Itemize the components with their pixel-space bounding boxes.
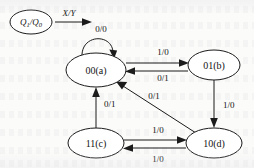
state-node-c[interactable]: 11(c): [68, 128, 124, 158]
transition-b-to-a-arrowhead-icon: [125, 67, 135, 75]
transition-d-to-a-arrowhead-icon: [116, 82, 127, 90]
transition-a-to-a-label: 0/0: [95, 24, 107, 34]
transition-d-to-c-label: 1/0: [152, 154, 164, 164]
state-node-d-label: 10(d): [203, 138, 225, 150]
transition-b-to-d: 1/0: [210, 80, 235, 128]
transition-c-to-a-arrowhead-icon: [92, 87, 100, 97]
legend-arrowhead-icon: [82, 18, 92, 25]
state-node-a[interactable]: 00(a): [66, 53, 126, 87]
state-node-a-label: 00(a): [85, 65, 106, 77]
figure-canvas: Q1/Q0 X/Y 0/0 1/0 0/1: [0, 0, 254, 168]
state-diagram: Q1/Q0 X/Y 0/0 1/0 0/1: [0, 0, 254, 168]
state-node-b-label: 01(b): [203, 60, 225, 72]
transition-b-to-d-arrowhead-icon: [210, 118, 218, 128]
transition-c-to-d: 1/0: [124, 125, 187, 144]
state-node-b[interactable]: 01(b): [188, 50, 240, 80]
transition-c-to-d-arrowhead-icon: [177, 136, 187, 144]
state-diagram-svg: Q1/Q0 X/Y 0/0 1/0 0/1: [0, 0, 254, 168]
transition-a-to-b-label: 1/0: [157, 47, 169, 57]
transition-c-to-a-label: 0/1: [104, 99, 116, 109]
transition-b-to-a-label: 0/1: [157, 73, 169, 83]
transition-d-to-c: 1/0: [123, 144, 186, 164]
transition-c-to-a: 0/1: [92, 87, 115, 128]
state-node-d[interactable]: 10(d): [186, 128, 242, 158]
transition-b-to-a: 0/1: [125, 67, 188, 83]
legend: Q1/Q0 X/Y: [10, 8, 92, 34]
legend-arrow-label: X/Y: [61, 8, 76, 18]
transition-b-to-d-label: 1/0: [223, 100, 235, 110]
transition-a-to-b-arrowhead-icon: [179, 59, 189, 67]
transition-a-to-b: 1/0: [126, 47, 189, 67]
transition-d-to-c-arrowhead-icon: [123, 144, 133, 152]
transition-d-to-a-label: 0/1: [148, 91, 160, 101]
transition-c-to-d-label: 1/0: [152, 125, 164, 135]
state-node-c-label: 11(c): [86, 138, 107, 150]
